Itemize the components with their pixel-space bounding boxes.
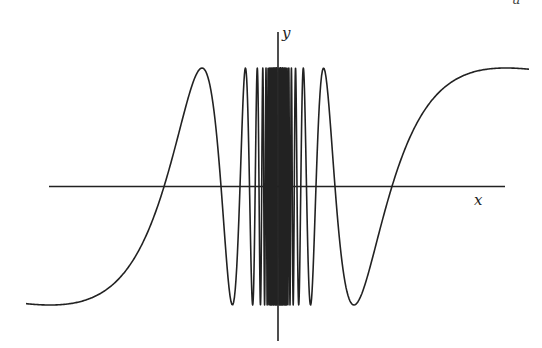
- x-axis-label: x: [474, 191, 483, 209]
- corner-text-fragment: u: [512, 0, 520, 7]
- y-axis-label: y: [281, 24, 291, 42]
- function-plot: x y u: [0, 0, 542, 348]
